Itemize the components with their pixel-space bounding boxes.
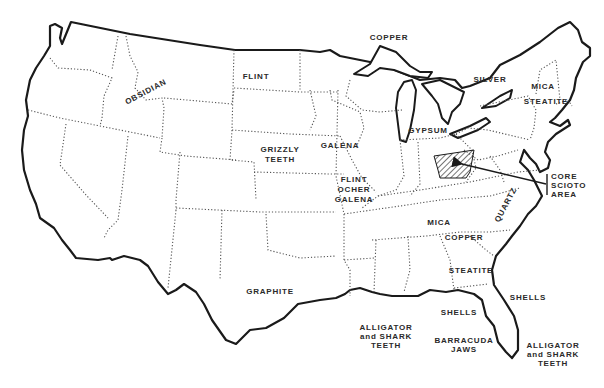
label-alligator-gulf: ALLIGATORand SHARKTEETH bbox=[359, 323, 412, 350]
label-mica-south: MICA bbox=[427, 218, 451, 227]
us-resource-map: OBSIDIAN FLINT GRIZZLYTEETH GALENA FLINT… bbox=[0, 0, 604, 388]
label-galena-north: GALENA bbox=[321, 141, 360, 150]
label-barracuda-jaws: BARRACUDAJAWS bbox=[434, 336, 493, 354]
label-graphite: GRAPHITE bbox=[246, 287, 294, 296]
label-steatite-south: STEATITE bbox=[449, 266, 493, 275]
label-flint-north: FLINT bbox=[243, 72, 270, 81]
label-gypsum: GYPSUM bbox=[408, 126, 447, 135]
label-copper-north: COPPER bbox=[370, 33, 409, 42]
label-grizzly-teeth: GRIZZLYTEETH bbox=[260, 145, 299, 164]
label-core-scioto-area: CORESCIOTOAREA bbox=[551, 172, 586, 199]
label-copper-south: COPPER bbox=[445, 233, 484, 242]
label-steatite-north: STEATITE bbox=[524, 97, 568, 106]
us-coastline bbox=[22, 22, 590, 358]
label-silver: SILVER bbox=[473, 75, 506, 84]
label-shells-atlantic: SHELLS bbox=[510, 293, 546, 302]
label-shells-gulf: SHELLS bbox=[441, 308, 477, 317]
label-alligator-atlantic: ALLIGATORand SHARKTEETH bbox=[526, 341, 579, 368]
label-mica-north: MICA bbox=[531, 82, 555, 91]
